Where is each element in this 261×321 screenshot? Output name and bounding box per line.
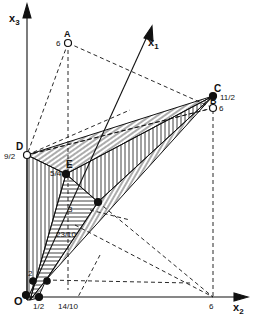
x1-label: x1 <box>148 36 159 51</box>
point-low-2 <box>44 278 50 284</box>
tick-inner-2: 2 <box>28 269 33 278</box>
point-A <box>65 40 72 47</box>
point-B-label: B <box>210 96 217 106</box>
tick-half: 1/2 <box>33 302 45 311</box>
point-D-value: 9/2 <box>4 152 16 161</box>
tick-inner-23-10: 23/10 <box>56 230 77 239</box>
point-E-value: 5/4 <box>50 169 62 178</box>
point-inner-1 <box>95 199 102 206</box>
point-half <box>36 294 43 301</box>
x3-arrowhead <box>23 4 31 18</box>
faces <box>27 96 213 300</box>
x2-label: x2 <box>233 301 244 316</box>
point-low-1 <box>30 278 36 284</box>
point-A-value: 6 <box>56 39 61 48</box>
point-D-label: D <box>16 141 23 152</box>
polyhedron-diagram: x3 x1 x2 O A 6 B 6 C 11/2 D 9/2 E 5/4 1/… <box>0 0 261 321</box>
point-E-label: E <box>66 159 73 170</box>
x2-arrowhead <box>234 293 248 301</box>
point-E <box>63 171 70 178</box>
x3-label: x3 <box>9 12 20 27</box>
point-C-value: 11/2 <box>220 93 236 102</box>
tick-inner-3: 3 <box>68 205 73 214</box>
point-A-label: A <box>64 29 71 39</box>
tick-14-10: 14/10 <box>58 302 79 311</box>
point-B-value: 6 <box>219 104 224 113</box>
point-D <box>24 152 31 159</box>
point-origin <box>23 292 30 299</box>
origin-label: O <box>14 295 23 307</box>
tick-six: 6 <box>209 302 214 311</box>
